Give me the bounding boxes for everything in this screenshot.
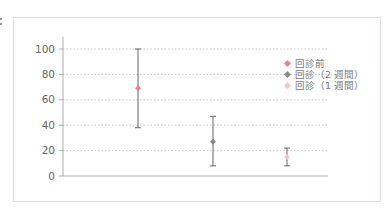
diamond-marker-icon	[284, 71, 291, 78]
y-tick-label: 20	[42, 144, 55, 156]
mean-marker	[284, 154, 290, 160]
y-tick-label: 60	[42, 93, 55, 105]
chart-plot: 020406080100	[0, 0, 391, 212]
y-tick-label: 40	[42, 119, 55, 131]
legend-item-pre: 回診前	[285, 58, 364, 69]
chart-legend: 回診前 回診（2 週間） 回診（1 週間）	[285, 58, 364, 91]
y-tick-label: 80	[42, 68, 55, 80]
legend-item-2weeks: 回診（2 週間）	[285, 69, 364, 80]
legend-label: 回診（2 週間）	[295, 69, 364, 80]
y-tick-label: 100	[35, 43, 55, 55]
diamond-marker-icon	[284, 60, 291, 67]
mean-marker	[135, 85, 141, 91]
legend-label: 回診前	[295, 58, 325, 69]
legend-label: 回診（1 週間）	[295, 80, 364, 91]
diamond-marker-icon	[284, 82, 291, 89]
y-tick-label: 0	[48, 170, 55, 182]
mean-marker	[210, 139, 216, 145]
legend-item-1week: 回診（1 週間）	[285, 80, 364, 91]
